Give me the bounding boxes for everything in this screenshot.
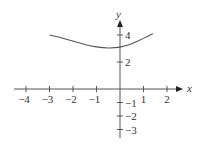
x-tick-label: 1 — [141, 93, 147, 105]
series-line — [50, 34, 153, 48]
x-tick-label: −4 — [18, 93, 30, 105]
y-axis — [117, 20, 123, 138]
y-tick-label: −1 — [125, 97, 137, 109]
x-tick-label: −2 — [65, 93, 77, 105]
chart-canvas: −4−3−2−112 −3−2−124 x y — [0, 0, 202, 144]
y-tick-label: −2 — [125, 110, 137, 122]
x-axis-label: x — [186, 82, 192, 94]
x-tick-label: −3 — [42, 93, 54, 105]
y-axis-arrow-icon — [117, 20, 123, 27]
y-tick-label: 4 — [125, 29, 131, 41]
x-axis — [14, 86, 183, 92]
x-tick-label: −1 — [89, 93, 101, 105]
x-tick-label: 2 — [164, 93, 170, 105]
y-tick-label: 2 — [125, 56, 131, 68]
x-axis-arrow-icon — [176, 86, 183, 92]
y-tick-label: −3 — [125, 124, 137, 136]
y-axis-label: y — [115, 8, 121, 20]
